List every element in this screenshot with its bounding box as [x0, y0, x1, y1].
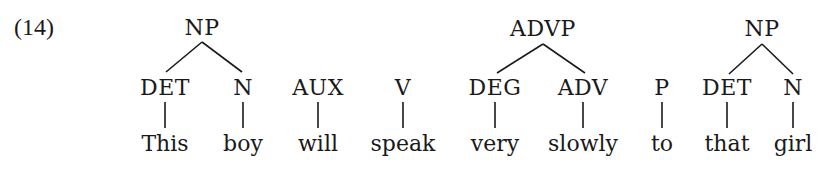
branch-np-n: [202, 42, 242, 72]
word-this: This: [141, 133, 188, 155]
word-boy: boy: [223, 133, 263, 155]
node-adv: ADV: [558, 77, 609, 99]
word-will: will: [298, 133, 338, 155]
node-aux: AUX: [292, 77, 344, 99]
node-advp: ADVP: [510, 18, 576, 40]
node-n-2: N: [783, 77, 803, 99]
branch-advp-adv: [543, 44, 585, 73]
word-very: very: [471, 133, 519, 155]
node-det-1: DET: [140, 77, 190, 99]
word-slowly: slowly: [548, 133, 618, 155]
word-girl: girl: [774, 133, 813, 155]
branch-advp-deg: [497, 44, 543, 73]
node-np-1: NP: [184, 17, 219, 39]
word-that: that: [705, 133, 750, 155]
node-p: P: [654, 77, 669, 99]
syntax-tree-diagram: (14) NP ADVP NP DET N AUX V DEG ADV P DE…: [0, 0, 833, 175]
word-speak: speak: [371, 133, 436, 155]
branch-np-det: [166, 42, 202, 72]
word-to: to: [651, 133, 673, 155]
branch-np-det-2: [729, 44, 762, 74]
node-det-2: DET: [702, 77, 752, 99]
node-v: V: [395, 77, 411, 99]
branch-np-n-2: [762, 44, 793, 74]
node-deg: DEG: [469, 77, 522, 99]
node-np-2: NP: [744, 18, 779, 40]
node-n-1: N: [233, 77, 253, 99]
